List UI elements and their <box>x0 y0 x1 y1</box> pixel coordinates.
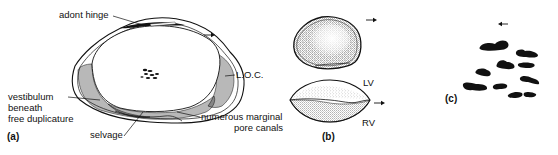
arrow-right-icon <box>366 18 377 22</box>
arrow-right-icon <box>374 101 385 105</box>
panel-label-c: (c) <box>445 93 457 104</box>
panel-b-carapace-drawing <box>290 17 385 122</box>
arrow-left-icon <box>498 22 508 26</box>
label-marginal-pore-canals-2: pore canals <box>234 123 283 134</box>
panel-label-a: (a) <box>7 131 19 142</box>
label-lv: LV <box>363 78 374 89</box>
label-selvage: selvage <box>90 130 123 141</box>
label-vestibulum-3: free duplicature <box>8 114 73 125</box>
label-vestibulum-1: vestibulum <box>8 92 53 103</box>
label-vestibulum-2: beneath <box>8 103 42 114</box>
panel-c-scar-pattern <box>463 22 539 98</box>
label-adont-hinge: adont hinge <box>59 10 109 21</box>
label-loc: L.O.C. <box>236 70 263 81</box>
label-marginal-pore-canals-1: numerous marginal <box>201 112 282 123</box>
panel-label-b: (b) <box>322 131 335 142</box>
label-rv: RV <box>362 118 375 129</box>
